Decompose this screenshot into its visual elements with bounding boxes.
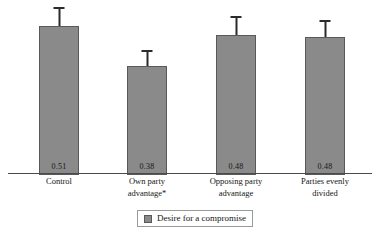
x-tick-line: divided (285, 188, 365, 200)
legend-swatch-icon (144, 215, 152, 223)
x-tick-label-parties-evenly-divided: Parties evenly divided (285, 176, 365, 199)
bar-group-0[interactable]: 0.51 (39, 2, 79, 175)
x-tick-line: Parties evenly (285, 176, 365, 188)
x-tick-line: Opposing party (191, 176, 281, 188)
x-axis-tick-labels: Control Own party advantage* Opposing pa… (0, 176, 380, 210)
x-tick-label-control: Control (19, 176, 99, 188)
x-tick-label-own-party-advantage: Own party advantage* (107, 176, 187, 199)
bar-own-party-advantage[interactable]: 0.38 (127, 66, 167, 175)
x-axis-line (8, 173, 372, 174)
bar-control[interactable]: 0.51 (39, 26, 79, 175)
error-bar-cap-top (231, 16, 242, 18)
bar-group-1[interactable]: 0.38 (127, 2, 167, 175)
x-tick-line: advantage (191, 188, 281, 200)
legend-item-label: Desire for a compromise (157, 213, 246, 224)
error-bar-cap-top (54, 7, 65, 9)
x-tick-line: Control (19, 176, 99, 188)
bar-value-label: 0.38 (128, 162, 166, 172)
x-tick-line: Own party (107, 176, 187, 188)
bar-value-label: 0.48 (217, 162, 255, 172)
bar-value-label: 0.51 (40, 162, 78, 172)
error-bar-cap-top (142, 50, 153, 52)
bar-group-2[interactable]: 0.48 (216, 2, 256, 175)
bar-opposing-party-advantage[interactable]: 0.48 (216, 35, 256, 175)
plot-area: 0.51 0.38 0.48 (0, 0, 380, 175)
bar-group-3[interactable]: 0.48 (305, 2, 345, 175)
error-bar-cap-top (320, 20, 331, 22)
x-tick-line: advantage* (107, 188, 187, 200)
bar-chart: 0.51 0.38 0.48 (0, 0, 380, 238)
chart-legend[interactable]: Desire for a compromise (137, 210, 253, 227)
bar-parties-evenly-divided[interactable]: 0.48 (305, 37, 345, 175)
x-tick-label-opposing-party-advantage: Opposing party advantage (191, 176, 281, 199)
bar-value-label: 0.48 (306, 162, 344, 172)
